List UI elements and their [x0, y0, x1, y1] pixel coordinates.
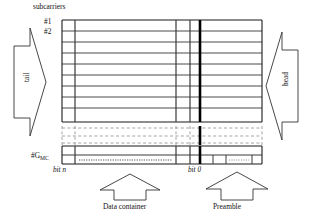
row-index-second-label: #2	[44, 28, 51, 35]
row-index-last-subscript: MC	[40, 155, 49, 161]
figure-canvas: subcarriers #1 #2 #GMC bit n bit 0 tail …	[0, 0, 313, 223]
row-index-last-label: #GMC	[31, 152, 49, 162]
bit-0-label: bit 0	[188, 167, 201, 174]
row-index-last-prefix: #G	[31, 151, 40, 160]
ellipsis-region	[62, 126, 262, 145]
head-arrow	[266, 32, 298, 140]
tail-label: tail	[22, 73, 31, 82]
main-grid-block	[62, 20, 262, 122]
last-subcarrier-row	[62, 146, 262, 164]
preamble-label: Preamble	[213, 203, 241, 210]
data-container-label: Data container	[103, 203, 146, 210]
tail-arrow	[14, 28, 46, 136]
data-container-arrow	[100, 174, 160, 200]
row-index-first-label: #1	[44, 18, 51, 25]
head-label: head	[281, 72, 290, 86]
bit-n-label: bit n	[53, 167, 66, 174]
preamble-arrow	[206, 172, 268, 200]
subcarriers-label: subcarriers	[33, 3, 65, 10]
